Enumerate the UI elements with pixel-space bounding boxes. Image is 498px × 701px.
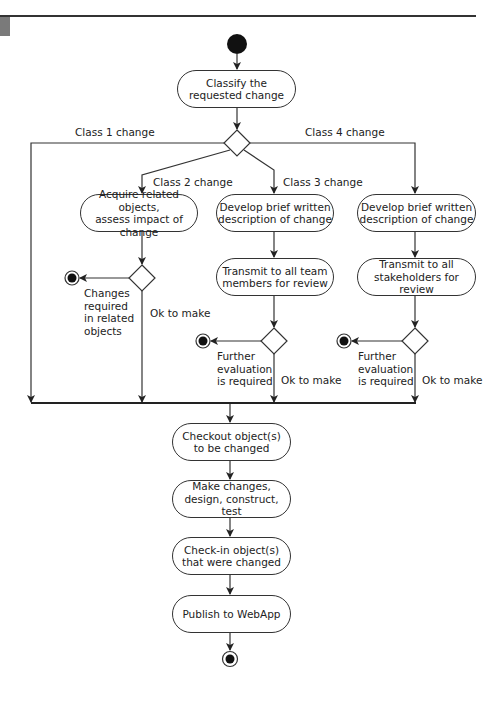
end-node-col2 bbox=[65, 271, 79, 285]
activity-develop-stakeholders: Develop brief written description of cha… bbox=[357, 194, 476, 232]
activity-publish: Publish to WebApp bbox=[172, 595, 291, 633]
label-class1: Class 1 change bbox=[75, 126, 155, 139]
activity-checkout: Checkout object(s) to be changed bbox=[172, 423, 291, 461]
activity-develop-team: Develop brief written description of cha… bbox=[216, 194, 334, 232]
label-ok-col3: Ok to make bbox=[281, 374, 341, 387]
activity-acquire: Acquire related objects, assess impact o… bbox=[80, 194, 198, 232]
end-node-col4 bbox=[337, 334, 351, 348]
activity-make-changes: Make changes, design, construct, test bbox=[172, 480, 291, 518]
label-class2: Class 2 change bbox=[153, 176, 233, 189]
label-ok-col4: Ok to make bbox=[422, 374, 482, 387]
activity-classify: Classify the requested change bbox=[177, 70, 296, 108]
label-class4: Class 4 change bbox=[305, 126, 385, 139]
end-node-final bbox=[223, 652, 238, 667]
end-node-col3 bbox=[196, 334, 210, 348]
start-node bbox=[227, 34, 247, 54]
label-changes-required: Changes required in related objects bbox=[84, 287, 134, 337]
label-class3: Class 3 change bbox=[283, 176, 363, 189]
label-further-col3: Further evaluation is required bbox=[217, 350, 273, 388]
activity-transmit-team: Transmit to all team members for review bbox=[216, 258, 334, 296]
label-ok-col2: Ok to make bbox=[150, 307, 210, 320]
activity-transmit-stakeholders: Transmit to all stakeholders for review bbox=[357, 258, 476, 296]
label-further-col4: Further evaluation is required bbox=[358, 350, 414, 388]
activity-checkin: Check-in object(s) that were changed bbox=[172, 537, 291, 575]
